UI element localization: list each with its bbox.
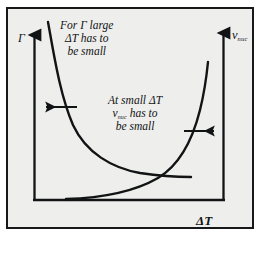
- annotation-middle-line1: At small ΔT: [108, 94, 162, 107]
- x-axis-label-text: ΔT: [196, 213, 212, 228]
- y-axis-right-label-subscript: nuc: [238, 35, 248, 42]
- y-axis-right-label: vnuc: [232, 28, 248, 43]
- annotation-top-left-line1-prefix: For: [60, 19, 80, 31]
- annotation-middle: At small ΔT vnuc has to be small: [108, 94, 162, 133]
- annotation-top-left-line3: be small: [60, 45, 113, 58]
- x-axis-label: ΔT: [196, 213, 212, 229]
- vnuc-symbol-subscript: nuc: [118, 114, 127, 120]
- annotation-middle-line3: be small: [108, 120, 162, 133]
- y-axis-left-label-text: Γ: [18, 31, 25, 45]
- figure-root: Γ vnuc ΔT For Γ large ΔT has to be small…: [0, 0, 269, 260]
- annotation-middle-line2: vnuc has to: [108, 107, 162, 120]
- y-axis-right-label-base: v: [232, 28, 238, 42]
- annotation-top-left-line1: For Γ large: [60, 19, 113, 32]
- annotation-top-left-line2: ΔT has to: [60, 32, 113, 45]
- annotation-top-left-line1-suffix: large: [87, 19, 114, 31]
- vnuc-symbol-base: v: [113, 107, 118, 119]
- annotation-top-left: For Γ large ΔT has to be small: [60, 19, 113, 58]
- annotation-middle-line2-suffix: has to: [127, 107, 158, 119]
- y-axis-left-label: Γ: [18, 31, 25, 46]
